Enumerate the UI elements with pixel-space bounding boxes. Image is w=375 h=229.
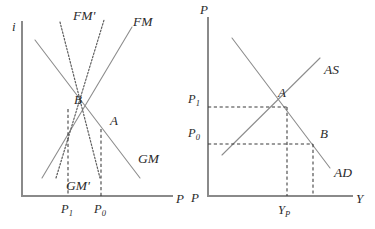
right-origin-label: P — [190, 190, 199, 205]
gm-curve — [35, 40, 140, 178]
economics-figure: i P FM' FM GM GM' B A P1 P0 — [0, 0, 375, 229]
fm-label: FM — [132, 14, 153, 29]
left-xtick-p1: P1 — [60, 202, 73, 218]
right-ytick-p1: P1 — [187, 92, 200, 108]
left-point-b-label: B — [74, 92, 82, 107]
fm-curve — [42, 27, 132, 178]
ad-curve — [232, 38, 330, 168]
ad-label: AD — [333, 165, 352, 180]
gm-prime-label: GM' — [66, 178, 91, 193]
fm-prime-label: FM' — [72, 8, 96, 23]
right-point-a-label: A — [277, 85, 286, 100]
left-point-a-label: A — [109, 113, 118, 128]
right-panel: P Y P AS AD A B P1 P0 YP — [187, 2, 365, 219]
gm-label: GM — [138, 151, 160, 166]
as-curve — [222, 58, 320, 155]
as-label: AS — [323, 62, 339, 77]
right-xtick-yp: YP — [278, 203, 290, 219]
right-x-axis-label: Y — [356, 191, 365, 206]
left-panel: i P FM' FM GM GM' B A P1 P0 — [12, 8, 184, 218]
left-y-axis-label: i — [12, 19, 16, 34]
right-point-b-label: B — [320, 126, 328, 141]
left-x-axis-label: P — [175, 191, 184, 206]
figure-canvas: i P FM' FM GM GM' B A P1 P0 — [0, 0, 375, 229]
left-xtick-p0: P0 — [93, 202, 107, 218]
right-ytick-p0: P0 — [187, 126, 201, 142]
right-y-axis-label: P — [199, 2, 208, 17]
